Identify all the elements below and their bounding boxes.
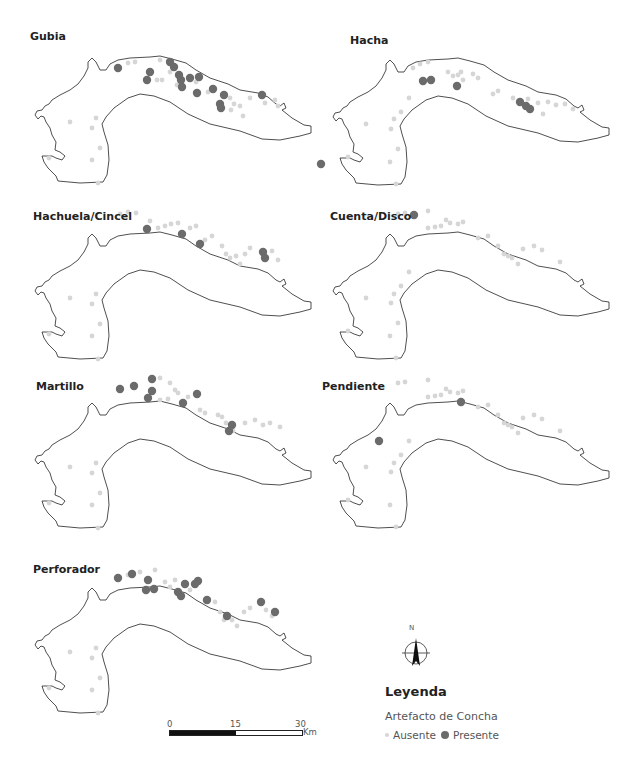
absent-site-marker: [392, 461, 397, 466]
present-site-marker: [150, 585, 158, 593]
absent-site-marker: [248, 606, 253, 611]
present-site-marker: [170, 63, 178, 71]
map-perforador: [35, 568, 311, 716]
absent-site-marker: [68, 296, 73, 301]
absent-site-marker: [486, 403, 491, 408]
absent-site-marker: [394, 182, 399, 187]
absent-site-marker: [276, 258, 281, 263]
absent-site-marker: [476, 405, 481, 410]
absent-site-marker: [188, 588, 193, 593]
absent-site-marker: [168, 381, 173, 386]
panel-title-gubia: Gubia: [30, 30, 66, 43]
absent-site-marker: [364, 122, 369, 127]
map-gubia: [35, 56, 311, 185]
legend-label-absent: Ausente: [393, 729, 436, 741]
absent-site-marker: [516, 262, 521, 267]
absent-site-marker: [166, 397, 171, 402]
absent-site-marker: [90, 334, 95, 339]
absent-site-marker: [194, 224, 199, 229]
legend-item-present: Presente: [441, 729, 499, 741]
absent-site-marker: [148, 219, 153, 224]
absent-site-marker: [243, 421, 248, 426]
absent-site-marker: [558, 260, 563, 265]
absent-site-marker: [68, 465, 73, 470]
absent-site-marker: [134, 211, 139, 216]
absent-site-marker: [389, 127, 394, 132]
scale-tick-15: 15: [230, 719, 241, 729]
absent-site-marker: [471, 72, 476, 77]
present-site-marker: [177, 592, 185, 600]
absent-site-marker: [238, 104, 243, 109]
present-site-marker: [194, 577, 202, 585]
absent-site-marker: [451, 74, 456, 79]
present-site-marker: [223, 612, 231, 620]
absent-site-marker: [90, 158, 95, 163]
absent-site-marker: [439, 393, 444, 398]
absent-site-marker: [96, 357, 101, 362]
absent-site-marker: [486, 234, 491, 239]
absent-site-marker: [248, 96, 253, 101]
present-site-marker: [453, 82, 461, 90]
absent-site-marker: [94, 646, 99, 651]
absent-site-marker: [563, 102, 568, 107]
panel-title-martillo: Martillo: [36, 380, 84, 393]
present-site-marker: [130, 382, 138, 390]
coastline-outline: [35, 56, 311, 183]
present-site-marker: [142, 586, 150, 594]
absent-site-marker: [511, 96, 516, 101]
absent-site-marker: [558, 429, 563, 434]
absent-site-marker: [242, 610, 247, 615]
absent-site-marker: [526, 97, 531, 102]
present-site-marker: [457, 398, 465, 406]
present-site-marker: [209, 85, 217, 93]
coastline-outline: [333, 232, 609, 359]
absent-site-marker: [238, 262, 243, 267]
absent-site-marker: [399, 110, 404, 115]
absent-site-marker: [224, 421, 229, 426]
absent-site-marker: [98, 322, 103, 327]
absent-site-marker: [98, 491, 103, 496]
absent-site-marker: [213, 600, 218, 605]
absent-site-marker: [426, 226, 431, 231]
absent-site-marker: [444, 218, 449, 223]
absent-site-marker: [418, 62, 423, 67]
absent-site-marker: [241, 114, 246, 119]
absent-site-marker: [263, 101, 268, 106]
absent-site-marker: [90, 688, 95, 693]
absent-site-marker: [510, 256, 515, 261]
absent-site-marker: [169, 222, 174, 227]
absent-site-marker: [411, 66, 416, 71]
present-site-marker: [217, 104, 225, 112]
absent-site-marker: [399, 453, 404, 458]
absent-site-marker: [546, 100, 551, 105]
absent-site-marker: [510, 425, 515, 430]
present-site-marker: [186, 74, 194, 82]
absent-site-marker: [476, 236, 481, 241]
panel-title-hacha: Hacha: [350, 34, 388, 47]
absent-site-marker: [276, 104, 281, 109]
absent-site-marker: [532, 244, 537, 249]
present-site-marker: [181, 580, 189, 588]
absent-site-marker: [186, 395, 191, 400]
absent-site-marker: [90, 126, 95, 131]
absent-site-marker: [90, 302, 95, 307]
absent-site-marker: [392, 117, 397, 122]
present-site-marker: [271, 608, 279, 616]
absent-site-marker: [496, 89, 501, 94]
absent-site-marker: [346, 329, 351, 334]
present-site-marker: [225, 427, 233, 435]
absent-site-marker: [176, 391, 181, 396]
absent-site-marker: [94, 461, 99, 466]
absent-site-marker: [407, 439, 412, 444]
absent-site-marker: [476, 76, 481, 81]
absent-site-marker: [94, 116, 99, 121]
absent-site-marker: [496, 413, 501, 418]
absent-site-marker: [155, 78, 160, 83]
map-hachuela: [35, 210, 311, 362]
absent-site-marker: [426, 209, 431, 214]
absent-site-marker: [96, 526, 101, 531]
absent-site-marker: [461, 78, 466, 83]
absent-site-marker: [96, 711, 101, 716]
map-martillo: [35, 375, 311, 531]
present-marker-icon: [441, 731, 449, 739]
